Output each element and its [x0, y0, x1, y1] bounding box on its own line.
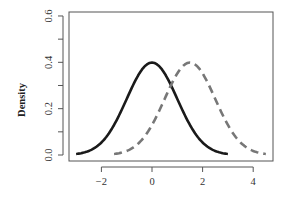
x-tick-label: −2 — [96, 176, 107, 187]
series-layer — [76, 63, 266, 154]
y-axis: 0.00.20.40.6 — [43, 9, 63, 161]
y-tick-label: 0.0 — [43, 148, 54, 161]
x-axis: −2024 — [96, 167, 257, 187]
density-chart: 0.00.20.40.6 −2024 Density — [0, 0, 291, 200]
y-tick-label: 0.6 — [43, 9, 54, 22]
y-tick-label: 0.2 — [43, 102, 54, 115]
x-tick-label: 2 — [200, 176, 205, 187]
x-tick-label: 0 — [149, 176, 154, 187]
y-tick-label: 0.4 — [43, 55, 54, 69]
x-tick-label: 4 — [251, 176, 257, 187]
y-axis-label: Density — [16, 82, 27, 117]
